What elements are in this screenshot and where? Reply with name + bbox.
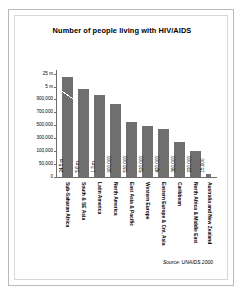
bar-value-label: 530,000 [125, 156, 130, 173]
y-tick-label: 500,000 [36, 123, 53, 128]
y-tick-label: 0 [50, 175, 53, 180]
category-label: Caribbean [177, 182, 182, 206]
category-label: Australia and New Zealand [207, 182, 212, 244]
y-tick-label: 900,000 [36, 97, 53, 102]
y-tick-mark [54, 138, 56, 139]
y-axis-line [56, 70, 57, 178]
y-tick-label: 700,000 [36, 110, 53, 115]
bar[interactable]: 520,000 [142, 126, 153, 177]
category-label: Latin America [97, 182, 102, 214]
bar-value-label: 220,000 [189, 156, 194, 173]
y-tick-mark [54, 164, 56, 165]
bar[interactable]: 5.6 m [78, 89, 89, 177]
category-label: Western Europe [145, 182, 150, 219]
y-tick-label: 5 m [45, 85, 53, 90]
chart-title: Number of people living with HIV/AIDS [15, 26, 229, 35]
bar[interactable]: 1.3 m [94, 95, 105, 177]
bar-value-label: 360,000 [173, 156, 178, 173]
bar-value-label: 420,000 [157, 156, 162, 173]
bar-value-label: 5.6 m [77, 162, 82, 174]
chart-frame: Number of people living with HIV/AIDS 25… [8, 9, 234, 286]
bar[interactable]: 420,000 [158, 129, 169, 177]
x-axis-line [56, 177, 217, 178]
category-label: Eastern Europe & Cnt. Asia [161, 182, 166, 245]
y-tick-mark [54, 87, 56, 88]
bar[interactable]: 220,000 [190, 151, 201, 177]
y-tick-mark [54, 125, 56, 126]
bar-value-label: 520,000 [141, 156, 146, 173]
bar[interactable]: 15,000 [206, 174, 211, 177]
category-label: East Asia & Pacific [129, 182, 134, 226]
bar[interactable]: 530,000 [126, 122, 137, 177]
y-tick-label: 100,000 [36, 149, 53, 154]
plot-area: 25 m 5 m 900,000 700,000 500,000 300,000… [56, 70, 217, 178]
bar[interactable]: 24.5 m [62, 77, 73, 177]
bar[interactable]: 360,000 [174, 142, 185, 177]
bar-value-label: 24.5 m [61, 159, 66, 173]
category-label: North America [113, 182, 118, 216]
y-tick-label: 300,000 [36, 136, 53, 141]
y-tick-label: 50,000 [39, 162, 53, 167]
bar[interactable]: 900,000 [110, 104, 121, 177]
bar-value-label: 1.3 m [93, 162, 98, 174]
bar-value-label: 900,000 [109, 156, 114, 173]
y-tick-label: 25 m [43, 72, 53, 77]
y-tick-mark [54, 177, 56, 178]
category-label: South & SE Asia [81, 182, 86, 220]
axis-break-mark [61, 90, 74, 99]
chart-inner-border: Number of people living with HIV/AIDS 25… [14, 15, 228, 280]
y-tick-mark [54, 112, 56, 113]
y-tick-mark [54, 151, 56, 152]
category-label: North Africa & Middle East [193, 182, 198, 244]
y-tick-mark [54, 74, 56, 75]
source-attribution: Source: UNAIDS 2000 [163, 259, 213, 265]
y-tick-mark [54, 99, 56, 100]
bar-value-label: 15,000 [202, 159, 207, 173]
category-label: Sub-Saharan Africa [65, 182, 70, 227]
